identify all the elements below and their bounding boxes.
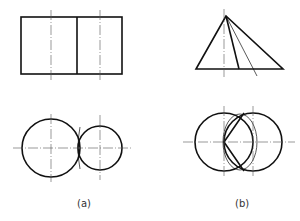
- panel-b-front-view: [196, 9, 283, 77]
- panel-a-front-view: [21, 10, 122, 81]
- panel-a-label: (a): [77, 198, 91, 209]
- panel-a-top-view: [13, 114, 133, 182]
- drawing-canvas: [0, 0, 300, 221]
- section-line: [226, 16, 239, 69]
- thin-section-line: [226, 16, 257, 76]
- rectangle-outline: [21, 17, 122, 74]
- panel-b-label: (b): [235, 198, 249, 209]
- panel-b-top-view: [183, 106, 295, 176]
